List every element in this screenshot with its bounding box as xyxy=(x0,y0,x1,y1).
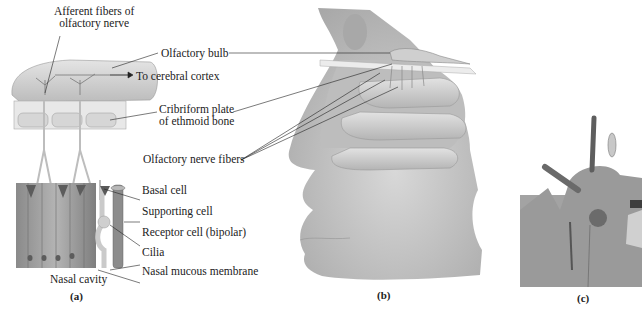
label-to-cerebral-cortex: To cerebral cortex xyxy=(136,70,219,82)
label-supporting-cell: Supporting cell xyxy=(142,205,213,217)
label-cribriform-line1: Cribriform plate xyxy=(159,103,234,115)
label-basal-cell: Basal cell xyxy=(142,184,187,196)
panel-c-micrograph xyxy=(520,118,642,287)
label-cilia: Cilia xyxy=(142,246,164,258)
label-cribriform-plate: Cribriform plate of ethmoid bone xyxy=(159,103,234,127)
panel-a-drawing xyxy=(12,60,158,268)
olfactory-figure: Afferent fibers of olfactory nerve Olfac… xyxy=(0,0,642,310)
label-olfactory-nerve-fibers: Olfactory nerve fibers xyxy=(143,153,245,165)
panel-c-label: (c) xyxy=(577,292,589,304)
panel-b-label: (b) xyxy=(377,289,390,301)
panel-b-drawing xyxy=(289,8,482,280)
label-afferent-line1: Afferent fibers of xyxy=(54,5,134,17)
label-receptor-cell: Receptor cell (bipolar) xyxy=(142,226,246,238)
label-afferent-line2: olfactory nerve xyxy=(54,17,134,29)
label-olfactory-bulb: Olfactory bulb xyxy=(161,47,228,59)
label-nasal-mucous-membrane: Nasal mucous membrane xyxy=(142,265,258,277)
label-nasal-cavity: Nasal cavity xyxy=(50,273,107,285)
label-cribriform-line2: of ethmoid bone xyxy=(159,115,234,127)
figure-illustration xyxy=(0,0,642,310)
panel-a-label: (a) xyxy=(70,290,83,302)
label-afferent-fibers: Afferent fibers of olfactory nerve xyxy=(54,5,134,29)
